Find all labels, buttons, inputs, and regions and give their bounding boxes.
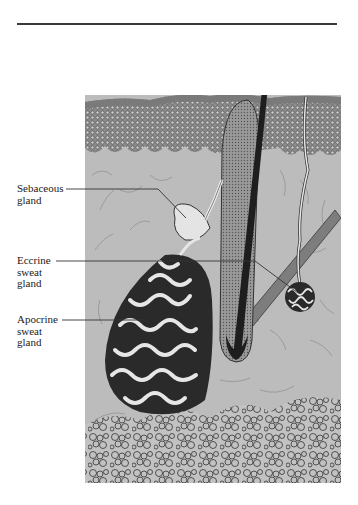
skin-illustration bbox=[0, 0, 358, 505]
label-sebaceous-gland: Sebaceous gland bbox=[17, 183, 63, 206]
label-apocrine-sweat-gland: Apocrine sweat gland bbox=[17, 314, 58, 349]
label-eccrine-sweat-gland: Eccrine sweat gland bbox=[17, 255, 51, 290]
